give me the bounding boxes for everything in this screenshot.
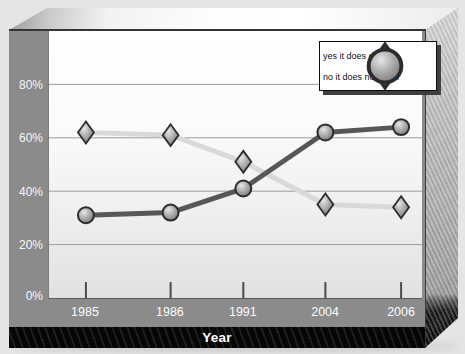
x-axis-title-strip: Year (9, 327, 425, 348)
data-point-diamond (317, 194, 333, 216)
data-point-diamond (235, 151, 251, 173)
y-tick-label: 40% (9, 184, 43, 200)
data-point-diamond (78, 122, 94, 144)
x-axis-title: Year (202, 330, 232, 345)
data-point-diamond (163, 124, 179, 146)
legend: yes it does deter no it does not deter (319, 41, 437, 91)
x-tick-label: 2004 (311, 305, 339, 319)
y-tick-label: 20% (9, 237, 43, 253)
plot-area: yes it does deter no it does not deter (48, 31, 422, 299)
legend-rows: yes it does deter no it does not deter (320, 45, 436, 87)
y-tick-label: 80% (9, 77, 43, 93)
x-axis: 19851986199120042006 (9, 299, 425, 327)
legend-item: no it does not deter (320, 66, 436, 87)
y-axis: 80%60%40%20%0% (9, 31, 48, 299)
y-tick-label: 60% (9, 130, 43, 146)
chart-front-face: 80%60%40%20%0% yes it does deter no it d… (9, 29, 425, 348)
block-top-face (9, 8, 457, 30)
x-tick-label: 1991 (229, 305, 257, 319)
data-point-diamond (393, 196, 409, 218)
data-point-circle (78, 207, 94, 223)
data-point-circle (393, 119, 409, 135)
data-point-circle (317, 124, 333, 140)
data-point-circle (235, 181, 251, 197)
data-point-circle (163, 205, 179, 221)
x-tick-label: 1985 (71, 305, 99, 319)
x-tick-label: 1986 (156, 305, 184, 319)
x-tick-label: 2006 (387, 305, 415, 319)
legend-circle-icon (327, 42, 443, 90)
